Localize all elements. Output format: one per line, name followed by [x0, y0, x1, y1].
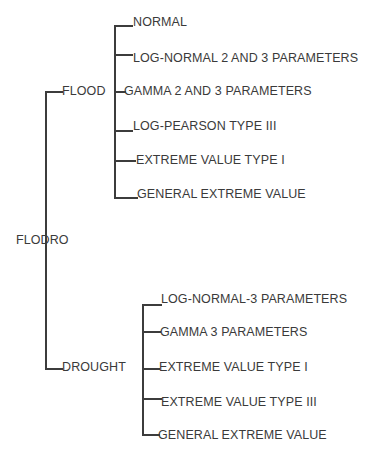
drought-child-gev: GENERAL EXTREME VALUE — [158, 428, 327, 442]
flood-connector — [45, 91, 63, 93]
flood-child-connector — [114, 130, 133, 132]
root-connector-vertical — [45, 91, 47, 369]
flood-child-connector — [114, 25, 133, 27]
flood-child-normal: NORMAL — [133, 15, 187, 29]
drought-children-vertical — [142, 304, 144, 435]
drought-child-ev1: EXTREME VALUE TYPE I — [159, 360, 308, 374]
flood-child-gev: GENERAL EXTREME VALUE — [137, 187, 306, 201]
flood-child-connector — [114, 160, 136, 162]
drought-child-connector — [142, 304, 162, 306]
flood-children-vertical — [114, 25, 116, 199]
flood-child-connector — [114, 197, 138, 199]
drought-connector — [45, 368, 63, 370]
drought-child-connector — [142, 368, 160, 370]
drought-child-connector — [142, 398, 162, 400]
flood-child-log-normal: LOG-NORMAL 2 AND 3 PARAMETERS — [133, 51, 358, 65]
drought-child-gamma-3: GAMMA 3 PARAMETERS — [160, 325, 307, 339]
flood-child-gamma: GAMMA 2 AND 3 PARAMETERS — [124, 84, 312, 98]
flood-child-log-pearson: LOG-PEARSON TYPE III — [133, 119, 276, 133]
flood-child-ev1: EXTREME VALUE TYPE I — [136, 153, 285, 167]
root-node-label: FLODRO — [16, 233, 69, 247]
drought-child-log-normal-3: LOG-NORMAL-3 PARAMETERS — [161, 292, 347, 306]
drought-child-ev3: EXTREME VALUE TYPE III — [161, 395, 317, 409]
drought-node-label: DROUGHT — [62, 360, 126, 374]
flood-node-label: FLOOD — [62, 84, 106, 98]
flood-child-connector — [114, 54, 133, 56]
drought-child-connector — [142, 331, 161, 333]
